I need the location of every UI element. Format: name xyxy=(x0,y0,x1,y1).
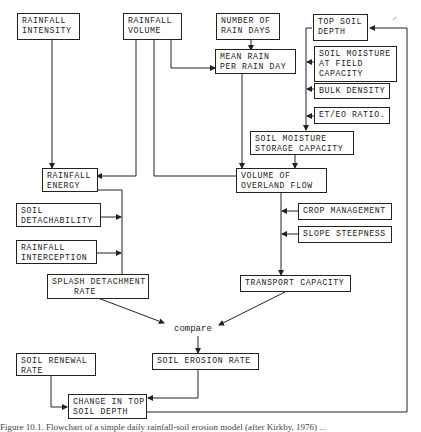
compare-label: compare xyxy=(174,324,212,334)
node-soil-detachability: SOIL DETACHABILITY xyxy=(16,203,101,227)
figure-caption: Figure 10.1. Flowchart of a simple daily… xyxy=(0,422,421,432)
node-splash-detachment-rate: SPLASH DETACHMENT RATE xyxy=(47,274,149,299)
node-soil-renewal-rate: SOIL RENEWAL RATE xyxy=(16,353,96,376)
node-change-in-top-soil-depth: CHANGE IN TOP SOIL DEPTH xyxy=(68,394,147,419)
node-soil-erosion-rate: SOIL EROSION RATE xyxy=(152,353,259,370)
node-top-soil-depth: TOP SOIL DEPTH xyxy=(313,14,368,41)
node-slope-steepness: SLOPE STEEPNESS xyxy=(298,226,392,243)
node-crop-management: CROP MANAGEMENT xyxy=(298,203,392,220)
node-volume-of-overland-flow: VOLUME OF OVERLAND FLOW xyxy=(236,168,327,193)
node-rainfall-energy: RAINFALL ENERGY xyxy=(42,168,98,192)
node-number-of-rain-days: NUMBER OF RAIN DAYS xyxy=(216,13,280,40)
node-mean-rain-per-rain-day: MEAN RAIN PER RAIN DAY xyxy=(215,49,296,74)
node-soil-moisture-field-capacity: SOIL MOISTURE AT FIELD CAPACITY xyxy=(314,46,397,82)
node-soil-moisture-storage-capacity: SOIL MOISTURE STORAGE CAPACITY xyxy=(250,131,354,155)
node-et-eo-ratio: ET/EO RATIO. xyxy=(314,107,390,124)
node-rainfall-intensity: RAINFALL INTENSITY xyxy=(17,13,80,40)
node-bulk-density: BULK DENSITY xyxy=(314,83,390,99)
node-rainfall-volume: RAINFALL VOLUME xyxy=(123,13,182,40)
node-rainfall-interception: RAINFALL INTERCEPTION xyxy=(16,240,97,264)
node-transport-capacity: TRANSPORT CAPACITY xyxy=(240,275,351,292)
